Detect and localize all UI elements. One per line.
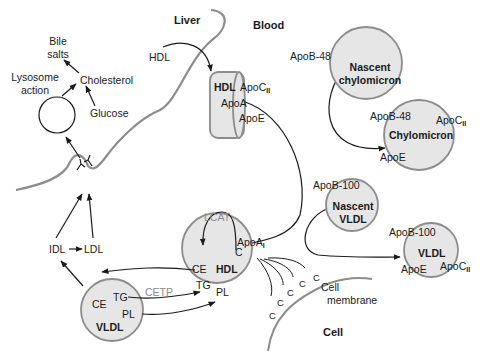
vldl-right-apoc: ApoCII <box>440 261 470 273</box>
chylo-apoc: ApoCII <box>436 115 466 127</box>
lcat-label: LCAT <box>204 212 230 223</box>
nascent-vldl-apo: ApoB-100 <box>313 180 360 191</box>
hdl-disc-apoc: ApoCII <box>240 82 270 94</box>
nascent-vldl-name: NascentVLDL <box>328 201 378 224</box>
nascent-chylo-name: Nascentchylomicron <box>330 62 410 85</box>
vldl-right-name: VLDL <box>418 248 445 259</box>
vldl-right-apoe: ApoE <box>401 264 427 275</box>
region-liver: Liver <box>174 15 200 26</box>
hdl-disc-apoa: ApoA <box>221 98 247 109</box>
region-cell: Cell <box>323 327 343 338</box>
vldl-right-apob: ApoB-100 <box>389 227 436 238</box>
hdl-disc-apoe: ApoE <box>239 113 265 124</box>
chain-c-5: C <box>313 273 320 283</box>
glucose-label: Glucose <box>90 108 129 119</box>
hdl-disc-name: HDL <box>214 82 236 93</box>
diagram-lines <box>0 0 484 351</box>
cholesterol-label: Cholesterol <box>80 75 133 86</box>
lysosome <box>39 97 75 133</box>
idl-label: IDL <box>49 244 65 255</box>
bile-salts-label: Bilesalts <box>47 36 69 59</box>
hdl-sphere-tg: TG <box>196 280 211 291</box>
chain-c-3: C <box>287 288 294 298</box>
chylo-apob: ApoB-48 <box>370 111 411 122</box>
vldl-left-ce: CE <box>92 299 107 310</box>
hdl-sphere-c: C <box>235 247 243 258</box>
region-blood: Blood <box>253 20 284 31</box>
ldl-label: LDL <box>84 244 103 255</box>
vldl-left-tg: TG <box>113 292 128 303</box>
lysosome-action-label: Lysosomeaction <box>8 72 62 95</box>
cell-membrane-label: Cellmembrane <box>321 282 377 305</box>
chain-c-2: C <box>277 298 284 308</box>
cetp-label: CETP <box>145 287 173 298</box>
nascent-chylo-apo: ApoB-48 <box>290 51 331 62</box>
chylo-apoe: ApoE <box>380 152 406 163</box>
hdl-sphere-name: HDL <box>216 264 238 275</box>
vldl-left-pl: PL <box>122 309 135 320</box>
hdl-sphere-ce: CE <box>192 264 207 275</box>
vldl-left-name: VLDL <box>96 322 123 333</box>
chylo-name: Chylomicron <box>389 130 453 141</box>
hdl-sphere-pl: PL <box>216 287 229 298</box>
chain-c-4: C <box>299 279 306 289</box>
hdl-input-label: HDL <box>149 52 170 63</box>
chain-c-1: C <box>269 311 276 321</box>
